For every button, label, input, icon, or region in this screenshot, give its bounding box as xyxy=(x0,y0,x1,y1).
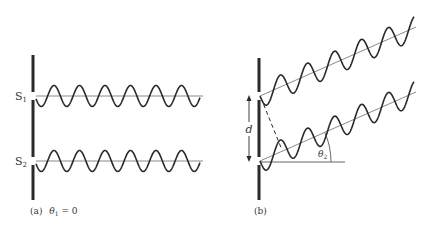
panel-b: d θ2 (b) xyxy=(244,17,416,216)
slit-label-s2: S2 xyxy=(15,155,27,169)
arrow-head-up xyxy=(247,95,252,101)
ray-2 xyxy=(260,92,416,161)
wave-ray-1 xyxy=(260,17,414,105)
caption-a: (a) θ1 = 0 xyxy=(30,206,78,217)
slit-label-s1: S1 xyxy=(15,90,27,104)
double-slit-diagram: S1 S2 (a) θ1 = 0 d xyxy=(0,0,436,228)
panel-a: S1 S2 (a) θ1 = 0 xyxy=(15,55,203,217)
caption-b: (b) xyxy=(254,206,267,216)
separation-label-d: d xyxy=(246,123,253,136)
arrow-head-down xyxy=(247,156,252,162)
ray-1 xyxy=(260,27,416,96)
wave-ray-2 xyxy=(260,82,414,170)
angle-label-theta2: θ2 xyxy=(318,149,327,160)
